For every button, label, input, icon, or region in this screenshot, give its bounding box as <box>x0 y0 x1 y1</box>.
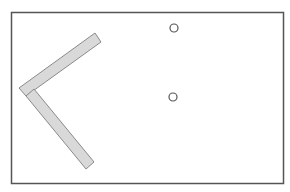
upper-bar <box>19 33 101 96</box>
diagram-canvas <box>0 0 290 192</box>
upper-circle <box>170 24 178 32</box>
lower-bar <box>26 89 94 169</box>
lower-circle <box>169 93 177 101</box>
frame-border <box>12 13 284 184</box>
